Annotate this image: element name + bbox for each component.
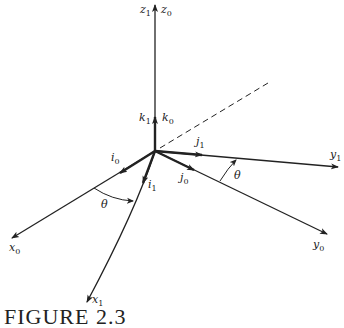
label-theta-x: θ	[101, 198, 108, 211]
label-j1: j1	[193, 135, 205, 150]
label-z1: z1	[139, 3, 151, 18]
label-k0: k0	[162, 111, 174, 126]
label-x0: x0	[9, 241, 20, 256]
theta-arc-x	[94, 188, 133, 201]
label-i1: i1	[148, 178, 157, 193]
label-i0: i0	[111, 151, 120, 166]
label-theta-y: θ	[234, 169, 241, 182]
label-y0: y0	[312, 238, 324, 253]
figure-caption: FIGURE 2.3	[4, 306, 126, 328]
label-k1: k1	[139, 111, 151, 126]
dashed-reference-line	[160, 83, 268, 148]
label-y1: y1	[329, 148, 341, 163]
label-z0: z0	[160, 3, 172, 18]
label-j0: j0	[177, 171, 189, 186]
